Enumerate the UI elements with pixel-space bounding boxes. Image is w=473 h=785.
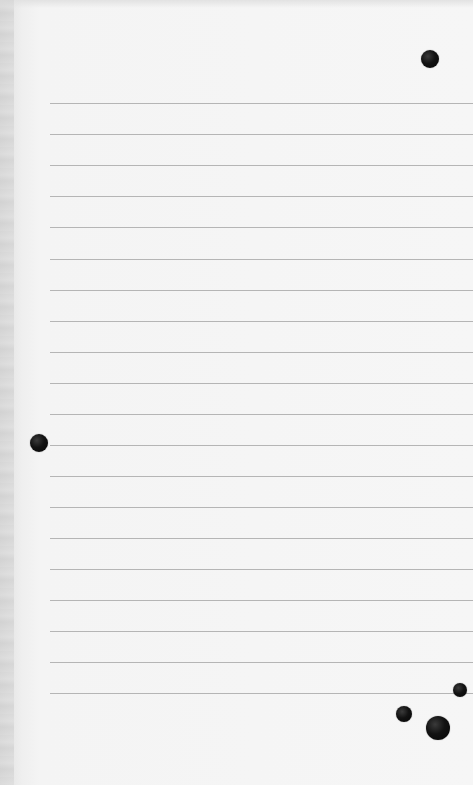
ruled-line [50, 631, 473, 632]
ruled-line [50, 538, 473, 539]
ruled-line [50, 414, 473, 415]
ink-dot [396, 706, 412, 722]
ink-dot [421, 50, 439, 68]
lined-paper-sheet [0, 0, 473, 785]
ruled-line [50, 227, 473, 228]
ruled-line [50, 600, 473, 601]
ruled-line [50, 103, 473, 104]
ruled-line [50, 445, 473, 446]
ruled-line [50, 476, 473, 477]
ruled-line [50, 134, 473, 135]
ink-dot [30, 434, 48, 452]
ruled-line [50, 165, 473, 166]
torn-left-edge [0, 0, 14, 785]
ruled-line [50, 507, 473, 508]
ruled-line [50, 352, 473, 353]
ruled-line [50, 693, 473, 694]
ruled-line [50, 196, 473, 197]
ruled-line [50, 569, 473, 570]
ruled-line [50, 662, 473, 663]
ink-dot [426, 716, 450, 740]
ink-dot [453, 683, 467, 697]
ruled-line [50, 259, 473, 260]
ruled-line [50, 290, 473, 291]
ruled-line [50, 383, 473, 384]
ruled-line [50, 321, 473, 322]
